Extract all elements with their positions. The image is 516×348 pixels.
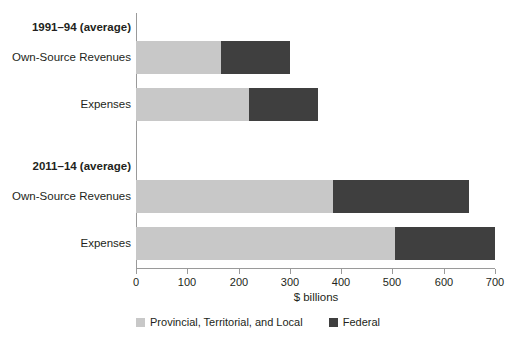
x-tick-700	[495, 269, 496, 274]
legend-label-federal: Federal	[343, 316, 380, 328]
x-tick-label-700: 700	[486, 276, 504, 288]
bar-own-source-revenues-1991	[136, 41, 290, 74]
bar-segment-provincial	[136, 88, 249, 121]
bar-expenses-2011	[136, 227, 495, 260]
bar-segment-federal	[249, 88, 318, 121]
x-tick-200	[239, 269, 240, 274]
x-tick-400	[341, 269, 342, 274]
bar-segment-provincial	[136, 41, 221, 74]
x-tick-0	[136, 269, 137, 274]
x-tick-label-400: 400	[332, 276, 350, 288]
bar-expenses-1991	[136, 88, 318, 121]
x-tick-label-300: 300	[281, 276, 299, 288]
x-tick-label-100: 100	[178, 276, 196, 288]
x-tick-100	[187, 269, 188, 274]
x-tick-label-200: 200	[230, 276, 248, 288]
legend-swatch-icon-federal	[329, 318, 338, 327]
chart-legend: Provincial, Territorial, and Local Feder…	[0, 316, 516, 328]
bar-segment-provincial	[136, 227, 395, 260]
x-tick-label-600: 600	[435, 276, 453, 288]
x-tick-label-500: 500	[383, 276, 401, 288]
legend-item-provincial: Provincial, Territorial, and Local	[136, 316, 303, 328]
category-label-expenses-1991: Expenses	[80, 98, 131, 111]
bar-segment-provincial	[136, 180, 333, 213]
bar-segment-federal	[221, 41, 290, 74]
x-tick-label-0: 0	[133, 276, 139, 288]
legend-item-federal: Federal	[329, 316, 380, 328]
category-label-expenses-2011: Expenses	[80, 237, 131, 250]
x-axis-title-text: $ billions	[294, 291, 339, 303]
chart-container: 1991–94 (average) Own-Source Revenues Ex…	[0, 0, 516, 348]
x-tick-500	[392, 269, 393, 274]
x-axis-title: $ billions	[0, 291, 516, 303]
legend-swatch-icon-provincial	[136, 318, 145, 327]
x-axis-line	[136, 268, 495, 269]
bar-segment-federal	[333, 180, 469, 213]
legend-label-provincial: Provincial, Territorial, and Local	[150, 316, 303, 328]
bar-own-source-revenues-2011	[136, 180, 469, 213]
category-label-own-source-revenues-1991: Own-Source Revenues	[12, 51, 131, 64]
category-label-own-source-revenues-2011: Own-Source Revenues	[12, 190, 131, 203]
group-label-2011-14: 2011–14 (average)	[33, 160, 131, 173]
x-tick-600	[444, 269, 445, 274]
x-tick-300	[290, 269, 291, 274]
group-label-1991-94: 1991–94 (average)	[32, 21, 131, 34]
bar-segment-federal	[395, 227, 495, 260]
